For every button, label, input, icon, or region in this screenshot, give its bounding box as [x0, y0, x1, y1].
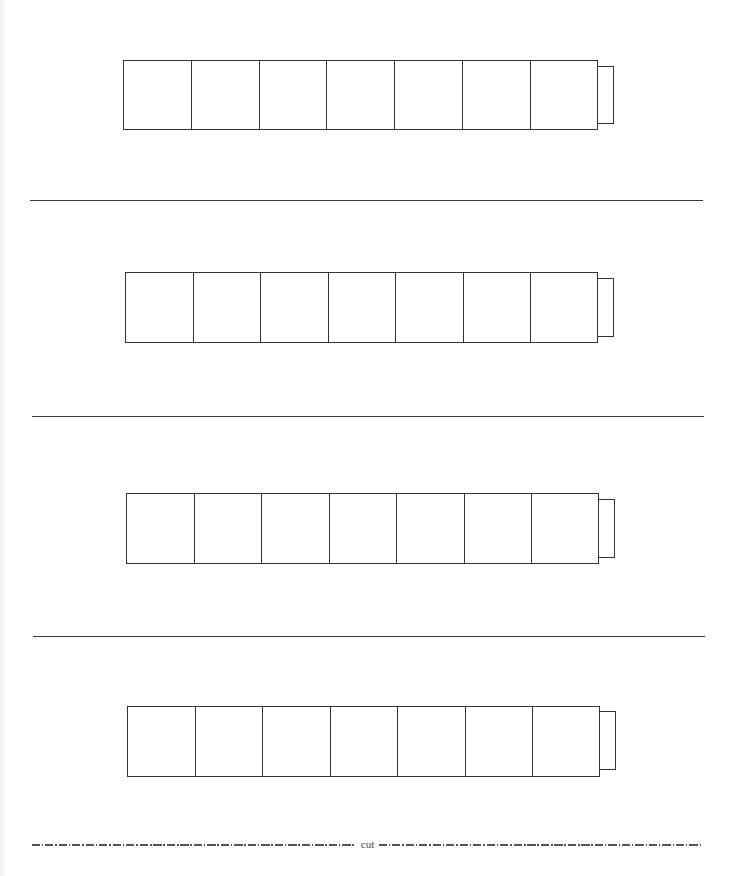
strip-cell: [196, 707, 264, 776]
strip-cell: [329, 273, 397, 342]
strip-cell: [532, 494, 598, 563]
separator-line-2: [32, 416, 704, 417]
strip-cell: [397, 494, 465, 563]
strip-cell: [533, 707, 599, 776]
strip-cell: [531, 61, 597, 129]
strip-cell: [531, 273, 597, 342]
strip-cell: [126, 273, 194, 342]
strip-cell: [465, 494, 533, 563]
cut-label: cut: [356, 837, 379, 851]
separator-line-3: [33, 636, 705, 637]
strip-end-tab: [598, 278, 614, 337]
counting-strip-3: [126, 493, 615, 564]
strip-cell: [195, 494, 263, 563]
strip-cell: [263, 707, 331, 776]
strip-cell: [464, 273, 532, 342]
separator-line-1: [30, 200, 703, 201]
strip-cell: [395, 61, 463, 129]
scan-edge-shade: [0, 0, 8, 876]
strip-cell: [463, 61, 531, 129]
strip-cell: [128, 707, 196, 776]
strip-cell: [261, 273, 329, 342]
strip-cells: [127, 706, 600, 777]
strip-cells: [126, 493, 599, 564]
strip-cell: [124, 61, 192, 129]
strip-cell: [330, 494, 398, 563]
strip-cell: [262, 494, 330, 563]
strip-cell: [398, 707, 466, 776]
counting-strip-2: [125, 272, 614, 343]
strip-cell: [466, 707, 534, 776]
cut-line-dashes-right: [379, 844, 703, 846]
strip-cell: [331, 707, 399, 776]
counting-strip-1: [123, 60, 614, 130]
cut-line: cut: [32, 838, 703, 852]
strip-end-tab: [600, 711, 616, 770]
strip-cell: [396, 273, 464, 342]
strip-end-tab: [599, 499, 615, 558]
strip-cells: [123, 60, 598, 130]
strip-cells: [125, 272, 598, 343]
cut-line-dashes-left: [32, 844, 356, 846]
counting-strip-4: [127, 706, 616, 777]
strip-end-tab: [598, 66, 614, 124]
strip-cell: [194, 273, 262, 342]
strip-cell: [192, 61, 260, 129]
strip-cell: [260, 61, 328, 129]
strip-cell: [327, 61, 395, 129]
strip-cell: [127, 494, 195, 563]
